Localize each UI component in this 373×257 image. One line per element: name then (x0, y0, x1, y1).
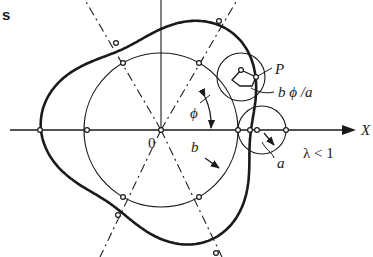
radius-b-line (200, 95, 210, 103)
angle-phi-arc (205, 97, 211, 128)
point-p-construction (232, 70, 256, 86)
diagram-graphics (0, 0, 373, 257)
arc-length-label: b ϕ /a (278, 85, 312, 100)
radius-b-arrow (205, 158, 219, 168)
x-axis-label: X (361, 123, 370, 138)
radius-a-arrow (264, 133, 274, 145)
x-axis-arrow-icon (342, 125, 356, 135)
angle-phi-label: ϕ (190, 106, 198, 121)
point-p-label: P (275, 62, 284, 77)
origin-label: 0 (148, 136, 156, 151)
corner-fragment-text: s (2, 7, 10, 22)
radius-b-label: b (191, 140, 199, 155)
ratio-condition-label: λ < 1 (303, 146, 334, 161)
trochoid-diagram: s 0 P b ϕ /a X ϕ b a λ < 1 (0, 0, 373, 257)
radius-a-label: a (277, 156, 285, 171)
